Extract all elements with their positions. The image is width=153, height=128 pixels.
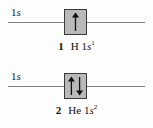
electron-configuration: 1s2 xyxy=(84,104,97,116)
spin-up-down-pair-icon xyxy=(67,76,85,96)
config-electron-count: 1 xyxy=(91,39,95,47)
subshell-label-1s: 1s xyxy=(11,70,21,82)
orbital-row-helium: 1s 2He1s2 xyxy=(0,64,153,128)
electron-spin-arrows xyxy=(65,74,86,98)
element-symbol: H xyxy=(71,40,79,52)
subshell-letter: s xyxy=(17,6,21,18)
subshell-letter: s xyxy=(17,70,21,82)
config-electron-count: 2 xyxy=(94,103,98,111)
spin-down-arrow-icon xyxy=(76,77,83,95)
electron-configuration: 1s1 xyxy=(82,40,95,52)
orbital-row-hydrogen: 1s 1H1s1 xyxy=(0,0,153,64)
orbital-box-helium-1s xyxy=(64,73,87,99)
atomic-number: 1 xyxy=(58,40,64,52)
subshell-label-1s: 1s xyxy=(11,6,21,18)
spin-up-arrow-icon xyxy=(71,12,80,32)
electron-spin-arrows xyxy=(65,10,86,34)
element-symbol: He xyxy=(68,104,81,116)
orbital-box-hydrogen-1s xyxy=(64,9,87,35)
caption-hydrogen: 1H1s1 xyxy=(0,39,153,53)
spin-up-arrow-icon xyxy=(67,77,74,95)
caption-helium: 2He1s2 xyxy=(0,103,153,117)
orbital-diagram-figure: 1s 1H1s1 1s xyxy=(0,0,153,128)
atomic-number: 2 xyxy=(56,104,62,116)
